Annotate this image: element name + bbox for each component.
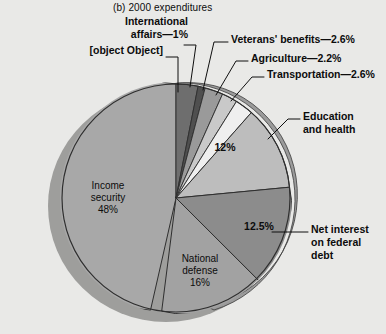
callout-other: [object Object] xyxy=(8,45,163,57)
inside-label-national-defense-value: 16% xyxy=(155,277,245,288)
inside-label-national-defense-line1: National xyxy=(155,253,245,264)
leader-line-veterans xyxy=(203,42,228,90)
callout-veterans-benefits: Veterans' benefits—2.6% xyxy=(231,34,355,46)
figure-title: (b) 2000 expenditures xyxy=(113,2,212,13)
inside-label-income-security-line2: security xyxy=(62,192,154,203)
leader-line-international-affairs xyxy=(184,45,196,87)
inside-label-net-interest-value: 12.5% xyxy=(237,221,281,233)
callout-agriculture: Agriculture—2.2% xyxy=(251,53,341,65)
callout-international-affairs-line2: affairs—1% xyxy=(8,29,188,41)
callout-transportation: Transportation—2.6% xyxy=(267,69,375,81)
callout-net-interest-line1: Net interest xyxy=(311,224,369,236)
callout-net-interest-line3: debt xyxy=(311,250,333,262)
callout-education-line2: and health xyxy=(303,124,356,136)
figure-container: (b) 2000 expenditures International affa… xyxy=(0,0,386,334)
inside-label-income-security-value: 48% xyxy=(62,204,154,215)
callout-education-line1: Education xyxy=(303,111,354,123)
inside-label-national-defense-line2: defense xyxy=(155,265,245,276)
callout-net-interest-line2: on federal xyxy=(311,237,361,249)
callout-international-affairs-line1: International xyxy=(8,16,188,28)
inside-label-income-security-line1: Income xyxy=(62,180,154,191)
inside-label-education-value: 12% xyxy=(205,142,245,154)
